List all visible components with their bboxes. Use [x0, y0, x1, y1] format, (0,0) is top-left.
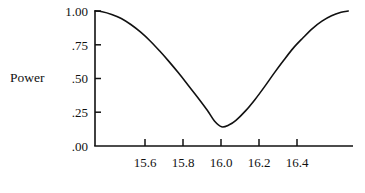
power-curve-line	[95, 11, 348, 127]
y-axis-ticks	[95, 11, 101, 112]
x-axis-ticks	[145, 139, 297, 146]
power-curve-figure: Power 1.00 .75 .50 .25 .00 15.6 15.8 16.…	[0, 0, 365, 193]
plot-area	[0, 0, 365, 193]
axis-lines	[94, 10, 353, 146]
